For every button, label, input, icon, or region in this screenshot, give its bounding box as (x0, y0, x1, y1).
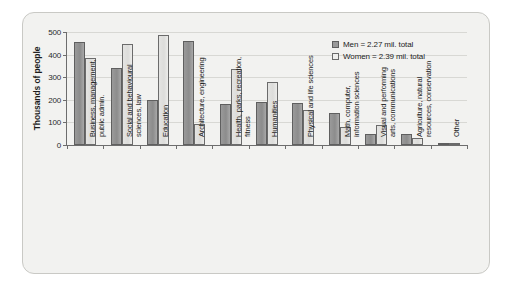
bar-men (401, 134, 412, 145)
bar-men (292, 103, 303, 145)
x-axis-label: Agriculture, naturalresources, conservat… (416, 61, 433, 137)
x-tick-mark (249, 145, 250, 149)
x-tick-mark (394, 145, 395, 149)
y-tick-label-500: 500 (48, 28, 61, 37)
x-tick-mark (176, 145, 177, 149)
y-axis-line (66, 32, 67, 145)
x-tick-mark (212, 145, 213, 149)
x-tick-mark (431, 145, 432, 149)
x-axis-label: Math, computer,information sciences (344, 72, 361, 137)
bar-men (183, 41, 194, 145)
x-axis-label: Education (162, 105, 171, 137)
x-axis-label: Humanities (271, 101, 280, 137)
legend-item-men: Men = 2.27 mil. total (332, 38, 425, 50)
bar-women (412, 138, 423, 145)
bar-women (449, 143, 460, 145)
x-tick-mark (285, 145, 286, 149)
x-tick-mark (467, 145, 468, 149)
chart-legend: Men = 2.27 mil. total Women = 2.39 mil. … (332, 38, 425, 62)
gridline-0 (67, 145, 467, 146)
x-tick-mark (322, 145, 323, 149)
bar-men (74, 42, 85, 145)
x-axis-label: Visual and performingarts, communication… (380, 67, 397, 137)
bar-men (365, 134, 376, 145)
y-tick-label-400: 400 (48, 50, 61, 59)
bar-men (111, 68, 122, 145)
x-axis-label: Social and behaviouralsciences, law (126, 64, 143, 137)
y-tick-label-200: 200 (48, 95, 61, 104)
y-tick-label-0: 0 (57, 141, 61, 150)
legend-label-men: Men = 2.27 mil. total (343, 40, 413, 49)
bar-men (220, 104, 231, 145)
x-tick-mark (103, 145, 104, 149)
bar-men (147, 100, 158, 145)
legend-label-women: Women = 2.39 mil. total (343, 52, 425, 61)
bar-men (438, 143, 449, 145)
legend-swatch-men-icon (332, 41, 339, 48)
y-tick-label-300: 300 (48, 73, 61, 82)
y-axis-title: Thousands of people (31, 32, 44, 145)
legend-swatch-women-icon (332, 53, 339, 60)
legend-item-women: Women = 2.39 mil. total (332, 50, 425, 62)
x-axis-label: Business, management,public admin. (89, 60, 106, 137)
chart-panel: Thousands of people 0100200300400500 Bus… (22, 12, 490, 274)
x-axis-label: Other (453, 119, 462, 137)
x-axis-label: Health, parks, recreation,fitness (235, 57, 252, 137)
x-tick-mark (67, 145, 68, 149)
x-tick-mark (140, 145, 141, 149)
y-tick-label-100: 100 (48, 118, 61, 127)
bar-men (256, 102, 267, 145)
x-axis-label: Physical and life sciences (307, 55, 316, 137)
bar-men (329, 113, 340, 145)
x-axis-label: Architecture, engineering (198, 57, 207, 137)
x-tick-mark (358, 145, 359, 149)
